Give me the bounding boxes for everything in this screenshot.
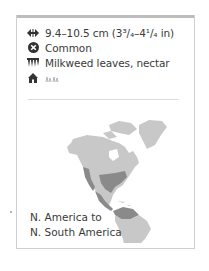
fact-list: 9.4–10.5 cm (3³/₄–4¹/₄ in) Common Milkwe… — [27, 25, 174, 85]
fact-status: Common — [27, 40, 174, 55]
size-text: 9.4–10.5 cm (3³/₄–4¹/₄ in) — [45, 27, 174, 39]
range-line-1: N. America to — [30, 210, 122, 225]
wingspan-arrows-icon — [27, 27, 39, 39]
fact-habitat — [27, 70, 174, 85]
species-info-card: 9.4–10.5 cm (3³/₄–4¹/₄ in) Common Milkwe… — [16, 15, 195, 249]
stray-mark — [10, 211, 12, 213]
food-text: Milkweed leaves, nectar — [45, 57, 170, 69]
status-cross-circle-icon — [27, 42, 39, 54]
range-line-2: N. South America — [30, 225, 122, 240]
range-description: N. America to N. South America — [30, 210, 122, 240]
fact-food: Milkweed leaves, nectar — [27, 55, 174, 70]
foodplant-icon — [27, 57, 39, 69]
card-top-strip — [17, 15, 194, 18]
grassland-habitat-icon — [45, 72, 59, 84]
divider — [28, 99, 179, 100]
status-text: Common — [45, 42, 92, 54]
home-icon — [27, 72, 39, 84]
fact-size: 9.4–10.5 cm (3³/₄–4¹/₄ in) — [27, 25, 174, 40]
